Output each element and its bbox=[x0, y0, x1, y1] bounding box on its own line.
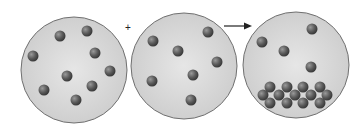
particle bbox=[39, 85, 50, 96]
particle bbox=[71, 95, 82, 106]
particle bbox=[62, 71, 73, 82]
arrow-icon bbox=[224, 23, 252, 30]
particle bbox=[28, 51, 39, 62]
plus-symbol: + bbox=[125, 22, 131, 33]
particle bbox=[105, 66, 116, 77]
particle bbox=[173, 46, 184, 57]
particle bbox=[279, 46, 290, 57]
particle bbox=[55, 31, 66, 42]
particle bbox=[188, 70, 199, 81]
particle bbox=[186, 95, 197, 106]
particle bbox=[148, 36, 159, 47]
particle bbox=[212, 57, 223, 68]
particle bbox=[307, 24, 318, 35]
precipitate-particle bbox=[282, 98, 293, 109]
beaker-solution-1 bbox=[21, 17, 127, 123]
precipitate-particle bbox=[306, 90, 317, 101]
precipitate-particle bbox=[298, 98, 309, 109]
particle bbox=[147, 76, 158, 87]
particle bbox=[90, 48, 101, 59]
precipitate-particle bbox=[282, 82, 293, 93]
beaker-circle bbox=[131, 13, 237, 119]
precipitate-particle bbox=[274, 90, 285, 101]
particle bbox=[257, 37, 268, 48]
particle bbox=[306, 62, 317, 73]
precipitate-particle bbox=[290, 90, 301, 101]
particle bbox=[82, 26, 93, 37]
beaker-solution-2 bbox=[131, 13, 237, 119]
particle bbox=[203, 27, 214, 38]
precipitate-particle bbox=[265, 98, 276, 109]
particle bbox=[87, 81, 98, 92]
beaker-mixture bbox=[243, 12, 349, 118]
precipitate-particle bbox=[315, 98, 326, 109]
precipitate-particle bbox=[298, 82, 309, 93]
beaker-circle bbox=[243, 12, 349, 118]
precipitation-diagram: + bbox=[0, 0, 363, 128]
